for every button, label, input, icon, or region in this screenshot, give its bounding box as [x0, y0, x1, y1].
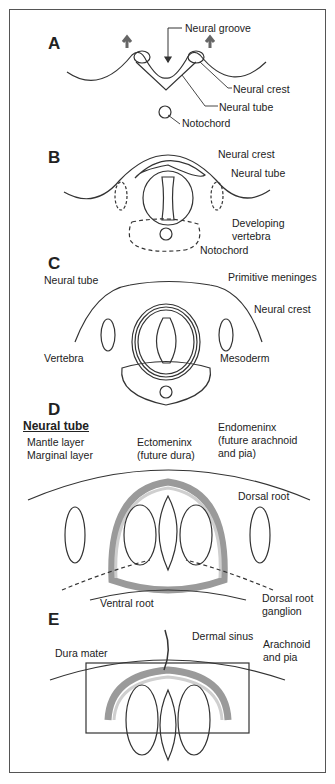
label-and-pia-e: and pia [263, 651, 297, 663]
label-arachnoid: Arachnoid [263, 638, 310, 650]
panel-label-d: D [48, 400, 60, 420]
label-neural-groove: Neural groove [185, 22, 251, 34]
label-neural-tube-c: Neural tube [44, 274, 98, 286]
panel-label-b: B [48, 148, 60, 168]
label-mesoderm: Mesoderm [220, 352, 270, 364]
label-primitive-meninges: Primitive meninges [228, 271, 317, 283]
panel-label-e: E [48, 610, 59, 630]
label-neural-tube-b: Neural tube [231, 167, 285, 179]
label-endomeninx: Endomeninx [218, 421, 276, 433]
label-neural-tube-d-heading: Neural tube [23, 420, 89, 432]
label-vertebra-b: vertebra [232, 230, 271, 242]
label-mantle-layer: Mantle layer [27, 436, 84, 448]
panel-c-drawing [75, 282, 262, 406]
label-ectomeninx: Ectomeninx [137, 436, 192, 448]
label-developing: Developing [232, 217, 285, 229]
label-dorsal-root: Dorsal root [238, 490, 289, 502]
label-dura-mater: Dura mater [55, 647, 108, 659]
label-neural-crest-a: Neural crest [233, 83, 290, 95]
label-marginal-layer: Marginal layer [27, 449, 93, 461]
label-vertebra-c: Vertebra [44, 352, 84, 364]
label-neural-tube-a: Neural tube [219, 101, 273, 113]
label-ganglion: ganglion [262, 605, 302, 617]
label-future-arachnoid: (future arachnoid [218, 434, 297, 446]
neural-tube-development-diagram [0, 0, 335, 784]
label-and-pia-d: and pia) [218, 447, 256, 459]
label-ventral-root: Ventral root [100, 597, 154, 609]
panel-label-a: A [48, 34, 60, 54]
panel-label-c: C [48, 254, 60, 274]
label-notochord-a: Notochord [182, 117, 230, 129]
label-future-dura: (future dura) [137, 449, 195, 461]
label-dermal-sinus: Dermal sinus [192, 630, 253, 642]
label-neural-crest-c: Neural crest [254, 303, 311, 315]
label-dorsal-root-2: Dorsal root [262, 592, 313, 604]
label-neural-crest-b: Neural crest [218, 148, 275, 160]
label-notochord-b: Notochord [200, 244, 248, 256]
